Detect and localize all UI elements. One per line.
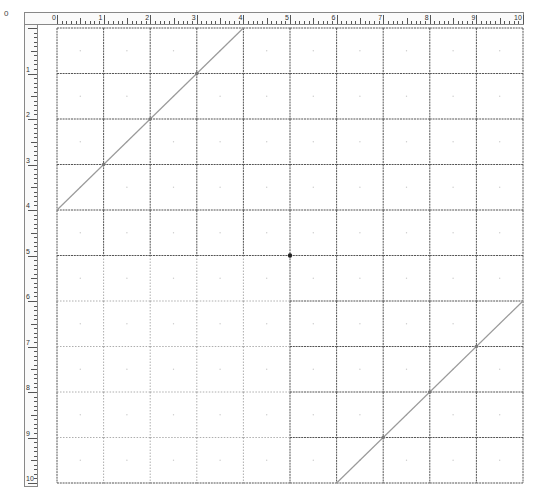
cell-center-dot: [219, 460, 220, 461]
cell-center-dot: [452, 232, 453, 233]
cell-center-dot: [80, 278, 81, 279]
cell-center-dot: [499, 141, 500, 142]
cell-center-dot: [126, 323, 127, 324]
cell-center-dot: [219, 232, 220, 233]
diagonal-point: [102, 163, 106, 167]
diagonal-point: [428, 390, 432, 394]
cell-center-dot: [219, 141, 220, 142]
cell-center-dot: [359, 278, 360, 279]
cell-center-dot: [359, 232, 360, 233]
cell-center-dot: [406, 278, 407, 279]
cell-center-dot: [359, 414, 360, 415]
cell-center-dot: [173, 187, 174, 188]
cell-center-dot: [313, 232, 314, 233]
cell-center-dot: [80, 369, 81, 370]
cell-center-dot: [406, 96, 407, 97]
cell-center-dot: [499, 50, 500, 51]
cell-center-dot: [313, 460, 314, 461]
diagonal-point: [475, 345, 479, 349]
cell-center-dot: [126, 369, 127, 370]
cell-center-dot: [126, 187, 127, 188]
cell-center-dot: [452, 323, 453, 324]
cell-center-dot: [313, 96, 314, 97]
cell-center-dot: [313, 369, 314, 370]
cell-center-dot: [313, 278, 314, 279]
cell-center-dot: [80, 96, 81, 97]
cell-center-dot: [313, 141, 314, 142]
cell-center-dot: [266, 187, 267, 188]
cell-center-dot: [173, 414, 174, 415]
cell-center-dot: [359, 187, 360, 188]
cell-center-dot: [219, 369, 220, 370]
cell-center-dot: [499, 96, 500, 97]
cell-center-dot: [266, 232, 267, 233]
cell-center-dot: [406, 369, 407, 370]
cell-center-dot: [219, 187, 220, 188]
diagonal-point: [381, 436, 385, 440]
cell-center-dot: [313, 50, 314, 51]
cell-center-dot: [173, 369, 174, 370]
cell-center-dot: [219, 96, 220, 97]
cell-center-dot: [499, 232, 500, 233]
cell-center-dot: [452, 278, 453, 279]
cell-center-dot: [126, 232, 127, 233]
cell-center-dot: [452, 187, 453, 188]
cell-center-dot: [266, 141, 267, 142]
cell-center-dot: [359, 323, 360, 324]
cell-center-dot: [406, 50, 407, 51]
cell-center-dot: [80, 460, 81, 461]
cell-center-dot: [406, 141, 407, 142]
cell-center-dot: [499, 414, 500, 415]
cell-center-dot: [80, 323, 81, 324]
cell-center-dot: [173, 323, 174, 324]
cell-center-dot: [266, 414, 267, 415]
cell-center-dot: [219, 414, 220, 415]
cell-center-dot: [173, 232, 174, 233]
cell-center-dot: [499, 369, 500, 370]
cell-center-dot: [313, 414, 314, 415]
cell-center-dot: [80, 232, 81, 233]
cell-center-dot: [406, 232, 407, 233]
cell-center-dot: [359, 141, 360, 142]
cell-center-dot: [173, 50, 174, 51]
cell-center-dot: [359, 50, 360, 51]
cell-center-dot: [266, 50, 267, 51]
cell-center-dot: [499, 460, 500, 461]
cell-center-dot: [313, 187, 314, 188]
cell-center-dot: [266, 278, 267, 279]
cell-center-dot: [406, 187, 407, 188]
cell-center-dot: [126, 278, 127, 279]
center-point: [288, 253, 292, 257]
cell-center-dot: [173, 278, 174, 279]
cell-center-dot: [173, 141, 174, 142]
cell-center-dot: [173, 460, 174, 461]
diagonal-point: [148, 117, 152, 121]
cell-center-dot: [266, 369, 267, 370]
cell-center-dot: [80, 141, 81, 142]
cell-center-dot: [359, 369, 360, 370]
cell-center-dot: [313, 323, 314, 324]
grid-canvas: [0, 0, 535, 501]
cell-center-dot: [219, 323, 220, 324]
cell-center-dot: [359, 96, 360, 97]
cell-center-dot: [219, 278, 220, 279]
cell-center-dot: [80, 50, 81, 51]
cell-center-dot: [126, 414, 127, 415]
cell-center-dot: [452, 414, 453, 415]
cell-center-dot: [452, 460, 453, 461]
cell-center-dot: [80, 414, 81, 415]
cell-center-dot: [126, 50, 127, 51]
cell-center-dot: [499, 278, 500, 279]
cell-center-dot: [406, 323, 407, 324]
cell-center-dot: [499, 187, 500, 188]
cell-center-dot: [452, 50, 453, 51]
cell-center-dot: [266, 460, 267, 461]
diagonal-point: [195, 72, 199, 76]
cell-center-dot: [452, 141, 453, 142]
cell-center-dot: [266, 323, 267, 324]
cell-center-dot: [406, 460, 407, 461]
cell-center-dot: [126, 460, 127, 461]
cell-center-dot: [126, 96, 127, 97]
cell-center-dot: [452, 96, 453, 97]
cell-center-dot: [266, 96, 267, 97]
